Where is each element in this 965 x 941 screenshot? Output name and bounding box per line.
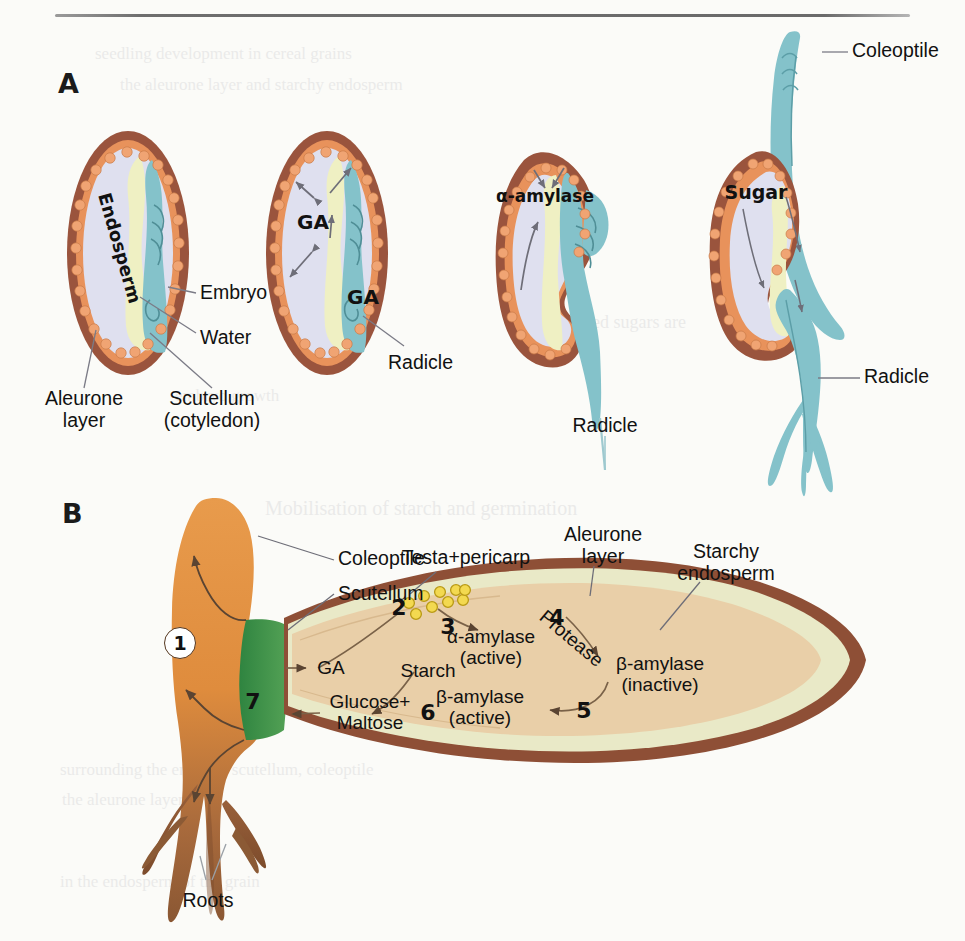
label-glucose-maltose-line2: Maltose — [330, 713, 411, 734]
seed-stage-2-artwork — [266, 131, 404, 375]
figure-page: seedling development in cereal grains th… — [0, 0, 965, 941]
seed-stage-1-artwork — [67, 131, 212, 388]
label-aleurone-layer: Aleurone layer — [45, 388, 123, 432]
seed-stage-4-artwork — [709, 31, 860, 496]
label-alpha-amylase-b-line1: α-amylase — [447, 627, 535, 648]
step-number-7: 7 — [245, 689, 260, 714]
label-beta-amylase-inactive-line1: β-amylase — [616, 654, 704, 675]
panel-b-letter: B — [62, 498, 83, 529]
label-beta-amylase-inactive: β-amylase (inactive) — [616, 654, 704, 696]
label-scutellum-b: Scutellum — [338, 583, 424, 605]
label-aleurone-layer-b: Aleurone layer — [564, 524, 642, 568]
label-ga-endosperm: GA — [297, 210, 329, 234]
label-alpha-amylase: α-amylase — [496, 186, 594, 206]
label-coleoptile-stage4: Coleoptile — [852, 40, 939, 62]
label-radicle-stage4: Radicle — [864, 366, 929, 388]
label-starchy-endosperm-line1: Starchy — [677, 541, 775, 563]
label-scutellum-cotyledon: Scutellum (cotyledon) — [164, 388, 260, 432]
label-roots: Roots — [183, 890, 234, 912]
step-number-5: 5 — [576, 698, 591, 723]
label-starchy-endosperm-line2: endosperm — [677, 563, 775, 585]
label-radicle-stage2: Radicle — [388, 352, 453, 374]
label-starchy-endosperm: Starchy endosperm — [677, 541, 775, 585]
label-aleurone-layer-line1: Aleurone — [45, 388, 123, 410]
label-water: Water — [200, 327, 251, 349]
label-embryo: Embryo — [200, 282, 267, 304]
label-alpha-amylase-b-line2: (active) — [447, 648, 535, 669]
label-ga-b: GA — [317, 658, 344, 679]
leader-roots-1 — [200, 856, 206, 880]
scutellum-region — [239, 619, 287, 740]
label-radicle-stage3: Radicle — [572, 415, 637, 437]
step-number-2: 2 — [391, 595, 406, 620]
leader-coleoptile-b — [258, 536, 334, 560]
step-number-3: 3 — [440, 614, 455, 639]
label-ga-embryo: GA — [347, 285, 379, 309]
label-scutellum-line1: Scutellum — [164, 388, 260, 410]
step-number-6: 6 — [420, 700, 435, 725]
label-beta-amylase-inactive-line2: (inactive) — [616, 675, 704, 696]
label-scutellum-line2: (cotyledon) — [164, 410, 260, 432]
label-glucose-maltose: Glucose+ Maltose — [330, 692, 411, 734]
label-beta-amylase-active-line2: (active) — [436, 708, 524, 729]
label-aleurone-layer-line2: layer — [45, 410, 123, 432]
label-beta-amylase-active-line1: β-amylase — [436, 687, 524, 708]
label-testa-pericarp: Testa+pericarp — [402, 547, 530, 569]
figure-artwork — [0, 0, 965, 941]
label-alpha-amylase-b: α-amylase (active) — [447, 627, 535, 669]
label-glucose-maltose-line1: Glucose+ — [330, 692, 411, 713]
label-beta-amylase-active: β-amylase (active) — [436, 687, 524, 729]
label-aleurone-layer-b-line1: Aleurone — [564, 524, 642, 546]
step-number-4: 4 — [549, 605, 564, 630]
label-aleurone-layer-b-line2: layer — [564, 546, 642, 568]
step-number-1: 1 — [164, 627, 196, 659]
label-sugar: Sugar — [724, 181, 787, 203]
